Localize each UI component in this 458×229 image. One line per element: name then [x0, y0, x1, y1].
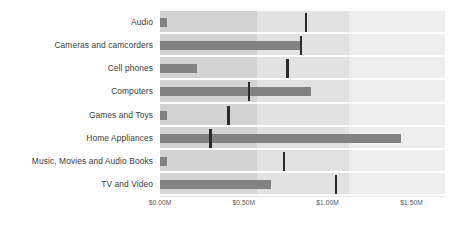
measure-bar[interactable]: [160, 180, 271, 189]
measure-bar[interactable]: [160, 134, 401, 143]
chart-row[interactable]: [160, 150, 445, 173]
category-label: TV and Video: [101, 173, 153, 196]
category-label: Cameras and camcorders: [54, 34, 153, 57]
x-tick-label: $0.50M: [233, 199, 256, 206]
chart-row[interactable]: [160, 57, 445, 80]
target-marker[interactable]: [227, 106, 230, 125]
category-label: Music, Movies and Audio Books: [32, 150, 153, 173]
measure-bar[interactable]: [160, 111, 167, 120]
x-tick-label: $1.50M: [400, 199, 423, 206]
measure-bar[interactable]: [160, 157, 167, 166]
axis-line: [160, 196, 445, 197]
x-tick-label: $0.00M: [149, 199, 172, 206]
target-marker[interactable]: [248, 82, 251, 101]
category-label: Audio: [131, 11, 153, 34]
chart-row[interactable]: [160, 104, 445, 127]
category-axis: AudioCameras and camcordersCell phonesCo…: [0, 11, 157, 196]
measure-bar[interactable]: [160, 18, 167, 27]
chart-row[interactable]: [160, 127, 445, 150]
chart-row[interactable]: [160, 11, 445, 34]
category-label: Games and Toys: [89, 104, 153, 127]
target-marker[interactable]: [335, 175, 338, 194]
target-marker[interactable]: [209, 129, 212, 148]
measure-bar[interactable]: [160, 64, 197, 73]
category-label: Computers: [111, 80, 153, 103]
target-marker[interactable]: [286, 59, 289, 78]
measure-bar[interactable]: [160, 87, 311, 96]
target-marker[interactable]: [305, 13, 308, 32]
x-tick-label: $1.00M: [316, 199, 339, 206]
value-axis: $0.00M$0.50M$1.00M$1.50M: [160, 196, 445, 216]
target-marker[interactable]: [300, 36, 303, 55]
chart-row[interactable]: [160, 173, 445, 196]
bullet-chart: AudioCameras and camcordersCell phonesCo…: [0, 0, 458, 229]
category-label: Home Appliances: [86, 127, 153, 150]
series-rows: [160, 11, 445, 196]
category-label: Cell phones: [108, 57, 153, 80]
target-marker[interactable]: [283, 152, 286, 171]
chart-row[interactable]: [160, 34, 445, 57]
plot-area: [160, 11, 445, 196]
measure-bar[interactable]: [160, 41, 301, 50]
chart-row[interactable]: [160, 80, 445, 103]
